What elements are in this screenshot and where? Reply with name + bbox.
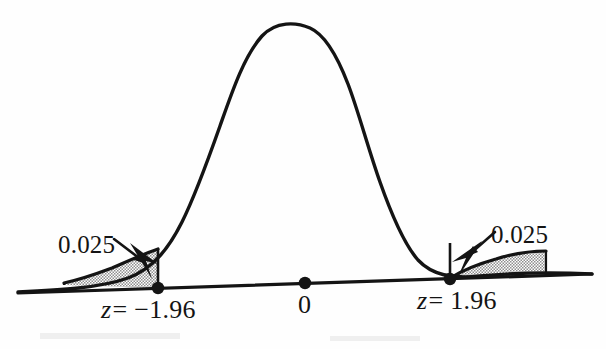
right-critical-value-label: z= 1.96 — [417, 288, 497, 314]
right-critical-point-dot — [444, 273, 456, 285]
z-symbol-right: z — [417, 286, 428, 315]
center-point-dot — [299, 277, 311, 289]
left-area-label: 0.025 — [58, 232, 115, 257]
center-value-label: 0 — [298, 292, 311, 318]
right-area-label: 0.025 — [491, 222, 548, 247]
normal-distribution-figure: 0.025 0.025 z= −1.96 0 z= 1.96 — [0, 0, 606, 349]
left-critical-value-text: = −1.96 — [112, 295, 195, 324]
scan-artifacts — [40, 333, 420, 341]
right-critical-value-text: = 1.96 — [428, 286, 496, 315]
left-critical-point-dot — [152, 282, 164, 294]
left-critical-value-label: z= −1.96 — [101, 297, 196, 323]
z-symbol-left: z — [101, 295, 112, 324]
